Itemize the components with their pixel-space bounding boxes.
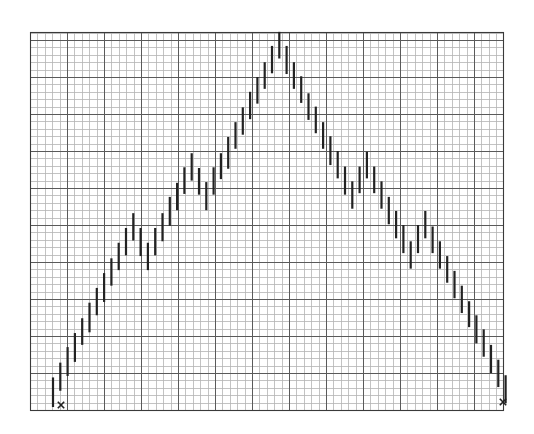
x-mark-icon xyxy=(58,402,64,408)
major-gridlines xyxy=(30,32,503,411)
minor-gridlines xyxy=(30,32,503,410)
range-bar-chart xyxy=(0,0,534,434)
plot-frame xyxy=(31,33,504,411)
